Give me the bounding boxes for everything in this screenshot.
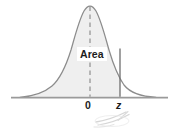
- area-label: Area: [77, 47, 107, 61]
- axis-tick-label-z: z: [116, 99, 121, 111]
- distribution-plot: [0, 0, 174, 132]
- axis-tick-label-zero: 0: [85, 99, 91, 111]
- normal-distribution-figure: Area 0 z: [0, 0, 174, 132]
